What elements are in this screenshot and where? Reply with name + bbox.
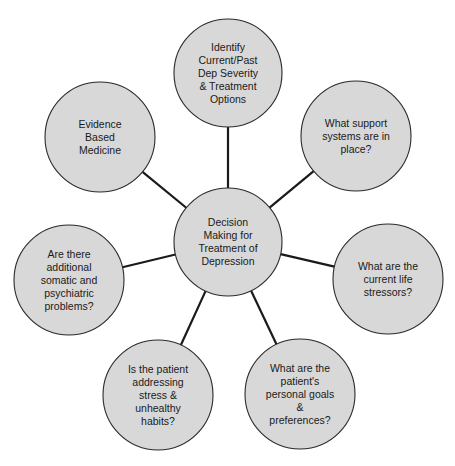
node-stress-habits: Is the patient addressing stress & unhea… [103, 340, 213, 450]
node-somatic-psychiatric: Are there additional somatic and psychia… [14, 225, 124, 335]
node-label: What are the current life stressors? [358, 260, 418, 299]
connector-line [251, 291, 276, 344]
node-goals-preferences: What are the patient's personal goals & … [245, 339, 355, 449]
node-identify-severity: Identify Current/Past Dep Severity & Tre… [174, 19, 282, 127]
node-label: What are the patient's personal goals & … [266, 362, 334, 427]
node-label: Are there additional somatic and psychia… [41, 248, 98, 313]
node-evidence-based: Evidence Based Medicine [45, 82, 155, 192]
node-life-stressors: What are the current life stressors? [333, 224, 443, 334]
connector-line [181, 291, 206, 345]
connector-line [122, 255, 175, 268]
node-label: Evidence Based Medicine [78, 118, 121, 157]
node-label: Is the patient addressing stress & unhea… [128, 363, 188, 428]
node-label: What support systems are in place? [322, 117, 390, 156]
center-node-label: Decision Making for Treatment of Depress… [198, 216, 257, 268]
center-node: Decision Making for Treatment of Depress… [174, 188, 282, 296]
node-label: Identify Current/Past Dep Severity & Tre… [198, 41, 258, 106]
connector-line [281, 254, 335, 266]
node-support-systems: What support systems are in place? [301, 81, 411, 191]
